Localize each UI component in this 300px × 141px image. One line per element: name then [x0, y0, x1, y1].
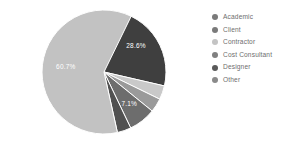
- legend-item[interactable]: Contractor: [212, 36, 300, 49]
- pie-svg: 28.6%7.1%60.7%: [0, 0, 205, 141]
- legend-item[interactable]: Designer: [212, 61, 300, 74]
- legend-item-label: Academic: [223, 11, 253, 24]
- legend-item-label: Cost Consultant: [223, 49, 272, 62]
- pie-slice-label: 7.1%: [121, 100, 137, 107]
- legend-item[interactable]: Client: [212, 24, 300, 37]
- legend-swatch-icon: [212, 39, 218, 45]
- legend-swatch-icon: [212, 52, 218, 58]
- legend-swatch-icon: [212, 14, 218, 20]
- legend-swatch-icon: [212, 65, 218, 71]
- legend-swatch-icon: [212, 27, 218, 33]
- legend-item[interactable]: Other: [212, 74, 300, 87]
- pie-plot-area: 28.6%7.1%60.7%: [0, 0, 205, 141]
- legend-item-label: Other: [223, 74, 240, 87]
- pie-slice-label: 28.6%: [126, 42, 145, 49]
- legend-item-label: Client: [223, 24, 241, 37]
- legend-item[interactable]: Academic: [212, 11, 300, 24]
- legend-item-label: Contractor: [223, 36, 255, 49]
- legend-item-label: Designer: [223, 61, 251, 74]
- pie-slice-label: 60.7%: [56, 63, 75, 70]
- legend-swatch-icon: [212, 77, 218, 83]
- pie-slice-group: [42, 10, 166, 134]
- pie-chart-figure: 28.6%7.1%60.7% AcademicClientContractorC…: [0, 0, 300, 141]
- legend-item[interactable]: Cost Consultant: [212, 49, 300, 62]
- chart-legend: AcademicClientContractorCost ConsultantD…: [205, 0, 300, 87]
